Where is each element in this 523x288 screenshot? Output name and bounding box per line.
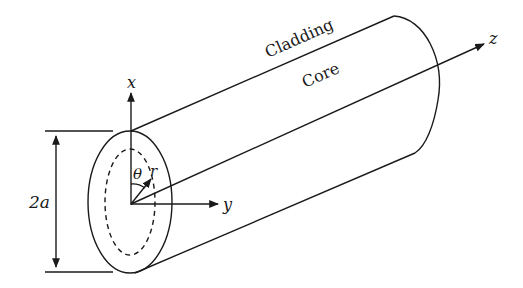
z-axis-label: z	[488, 29, 498, 48]
fiber-diagram: x y z θ r 2a Cladding Core	[0, 0, 523, 288]
cylinder-far-end-arc	[394, 16, 439, 153]
y-axis-label: y	[222, 195, 233, 214]
theta-label: θ	[133, 165, 142, 183]
radius-label: r	[150, 162, 158, 180]
x-axis-label: x	[127, 73, 136, 92]
diameter-dimension	[45, 131, 113, 272]
cylinder-top-edge	[131, 16, 394, 131]
z-axis-arrow	[131, 44, 484, 204]
diameter-label: 2a	[28, 192, 50, 212]
core-dashed-boundary	[105, 149, 155, 255]
theta-angle-arc	[131, 184, 145, 188]
cladding-label: Cladding	[262, 15, 336, 62]
core-label: Core	[299, 58, 342, 91]
cladding-front-face	[88, 131, 172, 273]
coordinate-axes	[131, 44, 484, 205]
cylinder-bottom-edge	[135, 153, 415, 273]
